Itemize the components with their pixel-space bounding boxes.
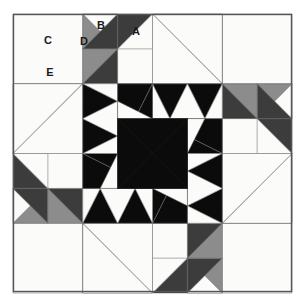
patch-c-white-square-q3 bbox=[13, 223, 83, 293]
patch-c-white-square-q2 bbox=[222, 223, 292, 293]
quilt-block-diagram: ABCDE bbox=[0, 0, 306, 307]
quilt-block-canvas: ABCDE bbox=[0, 0, 306, 307]
patch-c-white-square-q0 bbox=[13, 14, 83, 84]
patch-c-white-square-q1 bbox=[222, 14, 292, 84]
